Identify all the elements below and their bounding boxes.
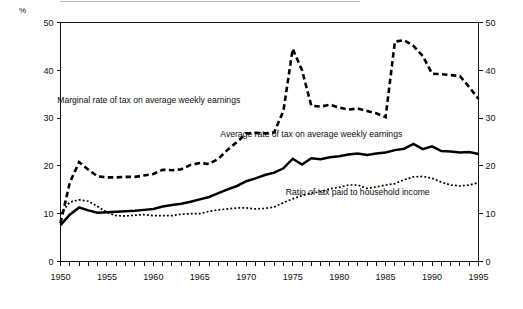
y-tick-label-left: 0 xyxy=(48,257,53,267)
x-tick-label: 1975 xyxy=(283,272,303,282)
y-tick-label-left: 10 xyxy=(43,209,53,219)
tick-marks xyxy=(57,23,483,266)
series-line-average-rate xyxy=(61,144,479,225)
y-tick-label-right: 20 xyxy=(486,161,496,171)
line-chart-canvas: 01020304050 01020304050 1950195519601965… xyxy=(0,0,523,309)
x-axis-labels: 1950195519601965197019751980198519901995 xyxy=(50,272,488,282)
chart-figure: 01020304050 01020304050 1950195519601965… xyxy=(0,0,523,309)
x-tick-label: 1965 xyxy=(190,272,210,282)
y-tick-label-right: 40 xyxy=(486,66,496,76)
y-axis-unit-label: % xyxy=(19,6,26,15)
x-tick-label: 1970 xyxy=(236,272,256,282)
x-tick-label: 1955 xyxy=(97,272,117,282)
y-axis-labels-right: 01020304050 xyxy=(486,18,496,267)
annotation-average-rate: Average rate of tax on average weekly ea… xyxy=(220,129,402,139)
annotation-marginal-rate: Marginal rate of tax on average weekly e… xyxy=(57,95,240,105)
y-axis-labels-left: 01020304050 xyxy=(43,18,53,267)
y-tick-label-left: 30 xyxy=(43,113,53,123)
y-tick-label-left: 40 xyxy=(43,66,53,76)
x-tick-label: 1960 xyxy=(143,272,163,282)
y-tick-label-right: 10 xyxy=(486,209,496,219)
y-tick-label-right: 0 xyxy=(486,257,491,267)
x-tick-label: 1995 xyxy=(468,272,488,282)
y-tick-label-left: 20 xyxy=(43,161,53,171)
x-tick-label: 1990 xyxy=(422,272,442,282)
x-tick-label: 1985 xyxy=(376,272,396,282)
y-tick-label-right: 30 xyxy=(486,113,496,123)
y-tick-label-right: 50 xyxy=(486,18,496,28)
x-tick-label: 1980 xyxy=(329,272,349,282)
axes xyxy=(61,23,479,262)
x-tick-label: 1950 xyxy=(50,272,70,282)
annotation-tax-ratio: Ratio of tax paid to household income xyxy=(286,187,430,197)
y-tick-label-left: 50 xyxy=(43,18,53,28)
